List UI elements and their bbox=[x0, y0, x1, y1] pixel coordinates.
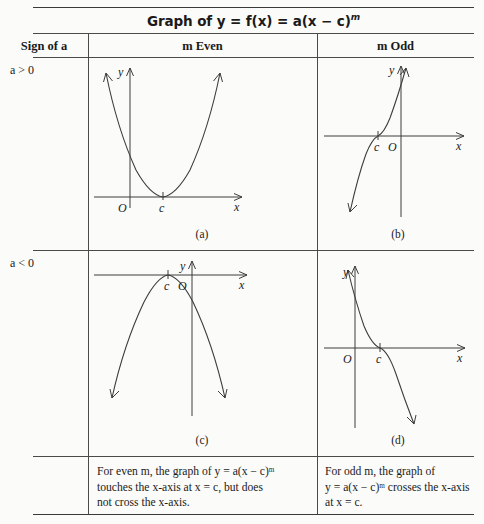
graph-a-label-x: x bbox=[233, 200, 240, 214]
graph-b-label-c: c bbox=[374, 140, 380, 154]
note-even: For even m, the graph of y = a(x − c)ᵐ t… bbox=[97, 464, 312, 511]
column-header-even-label: m Even bbox=[182, 39, 223, 53]
graph-c: c O x y bbox=[92, 258, 287, 433]
graph-d-label-x: x bbox=[456, 351, 463, 365]
page-title-exponent: m bbox=[351, 12, 360, 22]
graph-c-curve bbox=[112, 275, 225, 398]
row-label-a-negative: a < 0 bbox=[10, 256, 34, 271]
graph-c-label-y: y bbox=[179, 259, 186, 273]
graph-b-down-arrow bbox=[348, 203, 357, 212]
graph-b-label-origin: O bbox=[388, 140, 397, 154]
graph-b-label-x: x bbox=[455, 139, 462, 153]
graph-d: O c x y bbox=[322, 258, 477, 433]
note-odd-line-2: y = a(x − c)ᵐ crosses the x-axis bbox=[325, 480, 477, 496]
table-top-rule bbox=[33, 7, 474, 8]
graph-b: c O x y bbox=[322, 60, 477, 225]
graph-a: O c x y bbox=[92, 60, 282, 225]
graph-c-label-x: x bbox=[238, 278, 245, 292]
row-label-a-positive: a > 0 bbox=[10, 63, 34, 78]
title-bottom-rule bbox=[33, 33, 474, 34]
graph-c-caption: (c) bbox=[172, 434, 232, 446]
row1-bottom-rule bbox=[33, 250, 474, 251]
note-odd-line-3: at x = c. bbox=[325, 495, 477, 511]
graph-c-label-c: c bbox=[164, 279, 170, 293]
graph-b-caption: (b) bbox=[368, 228, 428, 240]
graph-c-left-arrow bbox=[110, 389, 119, 398]
header-bottom-rule bbox=[33, 57, 474, 58]
row2-bottom-rule bbox=[33, 456, 474, 457]
graph-a-label-y: y bbox=[117, 65, 124, 79]
page-title: Graph of y = f(x) = a(x − c)m bbox=[33, 12, 474, 29]
column-divider-1 bbox=[88, 33, 89, 514]
graph-c-right-arrow bbox=[218, 389, 227, 398]
graph-b-label-y: y bbox=[388, 63, 395, 77]
page-title-text: Graph of y = f(x) = a(x − c) bbox=[147, 13, 351, 29]
note-even-line-3: not cross the x-axis. bbox=[97, 495, 312, 511]
graph-a-label-origin: O bbox=[118, 201, 127, 215]
table-bottom-rule bbox=[33, 514, 474, 515]
graph-a-caption: (a) bbox=[172, 228, 232, 240]
graph-d-label-y: y bbox=[342, 265, 349, 279]
column-divider-2 bbox=[317, 33, 318, 514]
note-even-line-2: touches the x-axis at x = c, but does bbox=[97, 480, 312, 496]
graph-d-curve bbox=[348, 270, 414, 424]
column-header-sign: Sign of a bbox=[0, 39, 88, 54]
graph-d-caption: (d) bbox=[368, 434, 428, 446]
graph-a-curve bbox=[106, 73, 220, 197]
graph-a-label-c: c bbox=[159, 201, 165, 215]
graph-c-label-origin: O bbox=[178, 279, 187, 293]
graph-d-label-c: c bbox=[376, 352, 382, 366]
note-odd-line-1: For odd m, the graph of bbox=[325, 464, 477, 480]
note-even-line-1: For even m, the graph of y = a(x − c)ᵐ bbox=[97, 464, 312, 480]
column-header-odd-label: m Odd bbox=[377, 39, 414, 53]
column-header-sign-label: Sign of a bbox=[21, 39, 68, 53]
graph-summary-table: Graph of y = f(x) = a(x − c)m Sign of a … bbox=[0, 0, 484, 524]
note-odd: For odd m, the graph of y = a(x − c)ᵐ cr… bbox=[325, 464, 477, 511]
column-header-odd: m Odd bbox=[317, 39, 474, 54]
column-header-even: m Even bbox=[88, 39, 317, 54]
graph-d-label-origin: O bbox=[343, 352, 352, 366]
